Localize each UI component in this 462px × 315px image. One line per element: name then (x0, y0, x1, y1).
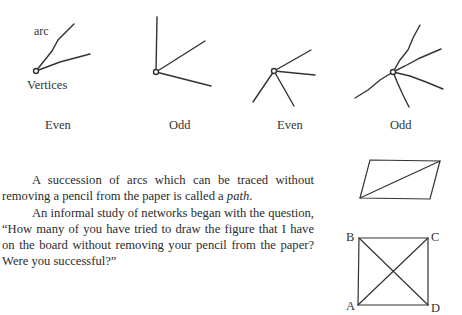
vertex-diagram-odd-1 (154, 17, 212, 86)
vertex-label-c: C (431, 231, 439, 244)
arc-line (274, 71, 315, 75)
paragraph-networks-study: An informal study of networks began with… (2, 205, 314, 270)
arc-line (156, 72, 211, 86)
paragraph-path-definition: A succession of arcs which can be traced… (2, 172, 314, 205)
body-text: A succession of arcs which can be traced… (2, 172, 314, 270)
diagram-label-odd-2: Odd (390, 119, 412, 132)
arc-line (274, 71, 294, 106)
vertex-diagram-even-2 (253, 50, 315, 106)
paragraph-text: . (249, 189, 252, 203)
parallelogram-figure (360, 160, 440, 199)
paragraph-text: A succession of arcs which can be traced… (2, 173, 314, 203)
arc-line (156, 41, 205, 72)
arc-label: arc (34, 25, 49, 37)
vertex-dot (34, 69, 39, 74)
diagram-label-odd-1: Odd (169, 119, 191, 132)
vertex-diagram-odd-2 (355, 25, 443, 107)
vertex-label-b: B (346, 231, 354, 244)
arc-line (156, 17, 157, 72)
vertex-label-d: D (431, 302, 440, 315)
arc-line (274, 50, 311, 71)
arc-line (253, 71, 274, 102)
vertex-dot (391, 70, 396, 75)
diagram-label-even-1: Even (45, 119, 71, 132)
vertex-dot (154, 70, 159, 75)
square-figure (358, 238, 428, 305)
vertices-label: Vertices (27, 79, 67, 92)
diagram-label-even-2: Even (277, 119, 303, 132)
arc-line (393, 72, 409, 107)
arc-line (36, 54, 90, 71)
vertex-dot (272, 69, 277, 74)
vertex-label-a: A (346, 300, 355, 313)
arc-line (355, 72, 393, 98)
term-path: path (227, 189, 249, 203)
arc-line (393, 72, 443, 89)
